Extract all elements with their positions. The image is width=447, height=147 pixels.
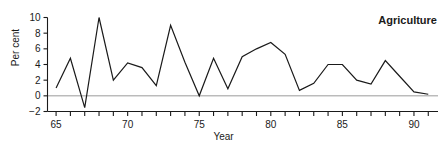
- x-axis-label: Year: [0, 131, 447, 142]
- y-tick-label: 10: [29, 12, 41, 23]
- x-tick-label: 80: [265, 119, 277, 130]
- x-tick-label: 65: [51, 119, 63, 130]
- x-tick-label: 70: [122, 119, 134, 130]
- x-tick-label: 90: [408, 119, 420, 130]
- y-axis-label: Per cent: [10, 13, 21, 83]
- y-tick-label: −2: [29, 106, 41, 117]
- series-label: Agriculture: [378, 14, 437, 26]
- x-tick-group: [56, 112, 428, 117]
- y-tick-label: 2: [35, 75, 41, 86]
- x-tick-label-group: 657075808590: [51, 119, 420, 130]
- x-tick-label: 85: [337, 119, 349, 130]
- chart-figure: Agriculture Per cent Year −20246810 6570…: [0, 0, 447, 147]
- clipped-header-text: [12, 0, 432, 3]
- data-series-line: [56, 18, 428, 108]
- y-tick-label: 4: [35, 59, 41, 70]
- y-tick-label: 8: [35, 28, 41, 39]
- y-tick-label: 0: [35, 90, 41, 101]
- y-tick-label: 6: [35, 43, 41, 54]
- y-tick-label-group: −20246810: [29, 12, 41, 117]
- y-tick-group: [44, 18, 48, 112]
- x-tick-label: 75: [194, 119, 206, 130]
